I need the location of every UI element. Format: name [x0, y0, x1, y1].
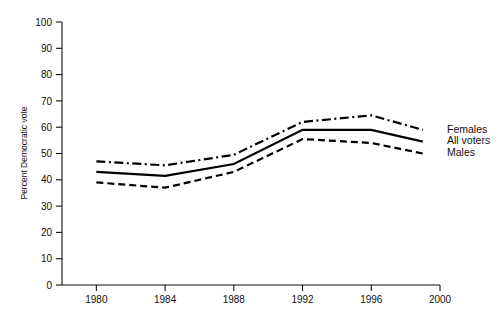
x-tick-label: 1984 — [154, 294, 177, 305]
y-tick-label: 90 — [41, 43, 53, 54]
democratic-vote-line-chart: 0102030405060708090100 Percent Democrati… — [0, 0, 500, 317]
y-tick-label: 30 — [41, 201, 53, 212]
y-tick-label: 100 — [35, 17, 52, 28]
y-tick-label: 0 — [46, 280, 52, 291]
x-tick-label: 1992 — [291, 294, 314, 305]
y-tick-label: 60 — [41, 122, 53, 133]
legend-label-females: Females — [447, 123, 487, 135]
chart-container: 0102030405060708090100 Percent Democrati… — [0, 0, 500, 317]
x-tick-label: 2000 — [429, 294, 452, 305]
x-tick-label: 1988 — [223, 294, 246, 305]
legend-label-males: Males — [447, 146, 475, 158]
legend-label-all-voters: All voters — [447, 134, 490, 146]
y-tick-label: 20 — [41, 227, 53, 238]
y-tick-label: 10 — [41, 253, 53, 264]
chart-background — [0, 0, 500, 317]
x-tick-label: 1996 — [360, 294, 383, 305]
y-tick-label: 70 — [41, 96, 53, 107]
y-axis-title: Percent Democratic vote — [19, 106, 29, 199]
y-tick-label: 50 — [41, 148, 53, 159]
y-tick-label: 40 — [41, 174, 53, 185]
x-tick-label: 1980 — [85, 294, 108, 305]
y-tick-label: 80 — [41, 69, 53, 80]
